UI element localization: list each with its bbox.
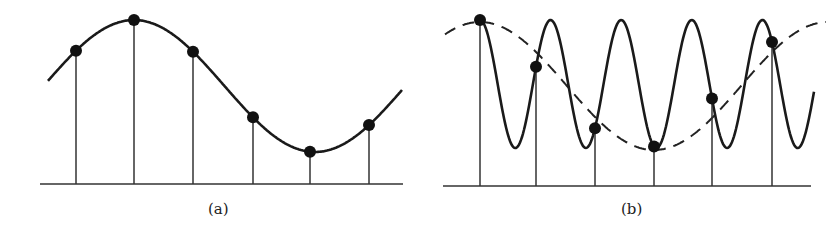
sample-point [474, 14, 486, 26]
signal-curve [480, 20, 814, 148]
sample-point [247, 111, 259, 123]
sample-point [530, 61, 542, 73]
panel-a [40, 14, 403, 184]
sample-point [706, 92, 718, 104]
panel-a-label: (a) [208, 200, 229, 218]
sample-point [766, 36, 778, 48]
sample-point [187, 46, 199, 58]
sample-point [363, 119, 375, 131]
panel-b [443, 14, 826, 186]
sample-point [128, 14, 140, 26]
sample-point [70, 45, 82, 57]
sample-point [589, 122, 601, 134]
sample-point [648, 140, 660, 152]
panel-b-label: (b) [621, 200, 642, 218]
signal-curve [48, 20, 402, 152]
sampling-diagram [0, 0, 826, 232]
sample-point [304, 146, 316, 158]
